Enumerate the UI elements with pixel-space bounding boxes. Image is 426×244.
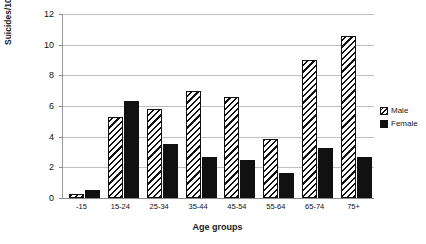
- bar-female-65-74: [318, 148, 333, 198]
- gridline-6: [63, 106, 374, 107]
- tick-mark-6: [59, 106, 63, 107]
- tick-mark-2: [59, 167, 63, 168]
- bar-female--15: [85, 190, 100, 198]
- legend-item-female: Female: [380, 117, 418, 130]
- legend-swatch-male-icon: [380, 107, 388, 115]
- y-axis-tick-12: 12: [28, 10, 54, 19]
- bar-male-55-64: [263, 139, 278, 198]
- tick-mark-0: [59, 198, 63, 199]
- y-axis-tick-8: 8: [28, 71, 54, 80]
- y-axis-tick-0: 0: [28, 194, 54, 203]
- legend-item-male: Male: [380, 104, 418, 117]
- bar-male-35-44: [186, 91, 201, 198]
- chart-legend: MaleFemale: [380, 104, 418, 130]
- legend-label-female: Female: [391, 118, 418, 130]
- tick-mark-10: [59, 45, 63, 46]
- bar-male-45-54: [224, 97, 239, 198]
- gridline-8: [63, 75, 374, 76]
- tick-mark-12: [59, 14, 63, 15]
- tick-mark-4: [59, 137, 63, 138]
- bar-female-45-54: [240, 160, 255, 198]
- y-axis-tick-4: 4: [28, 133, 54, 142]
- x-axis-tick-75+: 75+: [331, 202, 377, 211]
- bar-female-35-44: [202, 157, 217, 198]
- y-axis-tick-2: 2: [28, 163, 54, 172]
- plot-area: [62, 14, 373, 198]
- bar-female-75+: [357, 157, 372, 198]
- bar-chart: Suicides/100,000 024681012 -1515-2425-34…: [0, 0, 426, 244]
- y-axis-tick-6: 6: [28, 102, 54, 111]
- legend-swatch-female-icon: [380, 120, 388, 128]
- tick-mark-8: [59, 75, 63, 76]
- y-axis-tick-10: 10: [28, 41, 54, 50]
- bar-male-65-74: [302, 60, 317, 198]
- bar-male-25-34: [147, 109, 162, 198]
- y-axis-title: Suicides/100,000: [1, 0, 15, 76]
- bar-male-15-24: [108, 117, 123, 198]
- bar-male-75+: [341, 36, 356, 198]
- gridline-0: [63, 198, 374, 199]
- legend-label-male: Male: [391, 105, 408, 117]
- gridline-12: [63, 14, 374, 15]
- bar-male--15: [69, 194, 84, 198]
- bar-female-55-64: [279, 173, 294, 198]
- bar-female-15-24: [124, 101, 139, 198]
- gridline-10: [63, 45, 374, 46]
- x-axis-title: Age groups: [62, 222, 373, 232]
- bar-female-25-34: [163, 144, 178, 198]
